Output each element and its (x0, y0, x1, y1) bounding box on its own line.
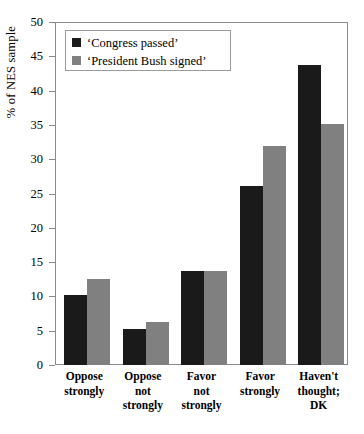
legend-item: ‘President Bush signed’ (72, 52, 230, 69)
y-tick: 20 (0, 228, 55, 229)
y-tick: 0 (0, 365, 55, 366)
y-tick-mark (49, 365, 55, 366)
bar (321, 124, 344, 365)
bar (240, 186, 263, 365)
y-tick: 5 (0, 331, 55, 332)
bar (263, 146, 286, 365)
y-tick-label: 30 (15, 153, 43, 165)
x-axis-label: Opposenotstrongly (114, 369, 172, 413)
bar (123, 329, 146, 365)
legend: ‘Congress passed’ ‘President Bush signed… (65, 30, 231, 71)
y-tick-label: 20 (15, 222, 43, 234)
bar (298, 65, 321, 365)
y-tick-label: 45 (15, 50, 43, 62)
x-axis-label: Favornotstrongly (173, 369, 231, 413)
legend-swatch-congress-passed (72, 38, 81, 47)
y-tick-label: 40 (15, 85, 43, 97)
legend-label-president-bush-signed: ‘President Bush signed’ (87, 54, 206, 68)
legend-swatch-president-bush-signed (72, 56, 81, 65)
legend-item: ‘Congress passed’ (72, 34, 230, 51)
x-axis-label: Haven'tthought;DK (290, 369, 348, 413)
bar (87, 279, 110, 365)
y-tick-label: 35 (15, 119, 43, 131)
y-tick: 10 (0, 296, 55, 297)
y-tick-label: 15 (15, 256, 43, 268)
bar (146, 322, 169, 365)
y-tick: 30 (0, 159, 55, 160)
x-axis-labels: OpposestronglyOpposenotstronglyFavornots… (55, 369, 348, 431)
y-tick: 50 (0, 22, 55, 23)
y-tick-label: 5 (15, 325, 43, 337)
bars-layer (55, 22, 348, 365)
bar (204, 271, 227, 365)
y-tick: 15 (0, 262, 55, 263)
y-tick-label: 10 (15, 290, 43, 302)
y-tick-label: 50 (15, 16, 43, 28)
y-tick: 45 (0, 56, 55, 57)
y-tick-label: 25 (15, 188, 43, 200)
bar (181, 271, 204, 365)
y-tick: 35 (0, 125, 55, 126)
legend-label-congress-passed: ‘Congress passed’ (87, 36, 178, 50)
bar-chart: % of NES sample 05101520253035404550 ‘Co… (0, 0, 364, 434)
x-axis-label: Opposestrongly (55, 369, 113, 398)
y-tick-label: 0 (15, 359, 43, 371)
y-tick: 40 (0, 91, 55, 92)
x-axis-label: Favorstrongly (231, 369, 289, 398)
bar (64, 295, 87, 365)
y-tick: 25 (0, 194, 55, 195)
